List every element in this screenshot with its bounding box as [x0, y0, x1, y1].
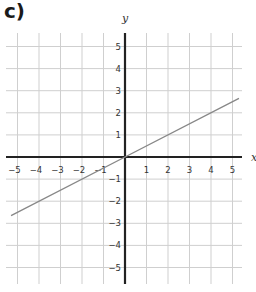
- x-tick-label: −2: [73, 165, 86, 175]
- y-tick-label: −1: [108, 174, 121, 184]
- y-tick-label: −4: [108, 240, 121, 250]
- axes: [6, 33, 242, 284]
- x-tick-label: 1: [144, 165, 149, 175]
- y-tick-label: −3: [108, 218, 121, 228]
- y-axis-label: y: [121, 12, 129, 25]
- y-tick-label: −2: [108, 196, 121, 206]
- x-tick-label: 4: [208, 165, 213, 175]
- y-tick-label: 4: [116, 64, 121, 74]
- x-tick-label: 3: [187, 165, 192, 175]
- y-tick-label: 5: [116, 42, 121, 52]
- y-tick-label: 1: [116, 130, 121, 140]
- x-tick-label: −4: [30, 165, 43, 175]
- y-tick-label: −5: [108, 263, 121, 273]
- coordinate-grid-chart: −5−4−3−2−11234554321−1−2−3−4−5 x y: [0, 0, 256, 292]
- x-tick-label: −3: [51, 165, 64, 175]
- x-axis-label: x: [251, 151, 256, 164]
- x-tick-label: −5: [8, 165, 21, 175]
- y-tick-label: 3: [116, 86, 121, 96]
- x-tick-label: 5: [230, 165, 235, 175]
- x-tick-label: 2: [165, 165, 170, 175]
- y-tick-label: 2: [116, 108, 121, 118]
